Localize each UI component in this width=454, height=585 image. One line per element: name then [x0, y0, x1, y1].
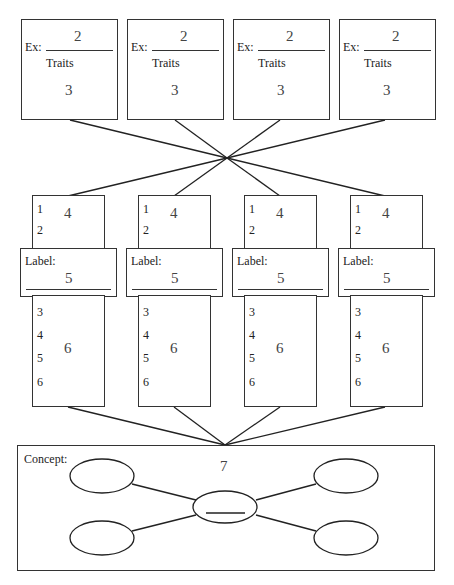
concept-node-bottom-right[interactable]	[314, 521, 378, 555]
concept-node-center[interactable]	[193, 491, 257, 523]
concept-map	[0, 0, 454, 585]
concept-node-top-left[interactable]	[70, 459, 134, 493]
concept-node-top-right[interactable]	[314, 459, 378, 493]
concept-node-bottom-left[interactable]	[70, 521, 134, 555]
